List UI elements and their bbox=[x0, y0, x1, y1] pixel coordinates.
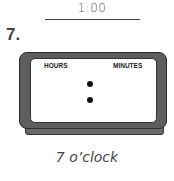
colon-dot-top-icon bbox=[87, 81, 93, 87]
caption: 7 o’clock bbox=[0, 149, 174, 165]
colon-dot-bottom-icon bbox=[87, 97, 93, 103]
hours-label: HOURS bbox=[44, 62, 67, 69]
problem-number: 7. bbox=[6, 25, 20, 45]
answer-text: 1:00 bbox=[46, 1, 138, 15]
minutes-label: MINUTES bbox=[113, 62, 142, 69]
answer-line bbox=[45, 19, 140, 20]
